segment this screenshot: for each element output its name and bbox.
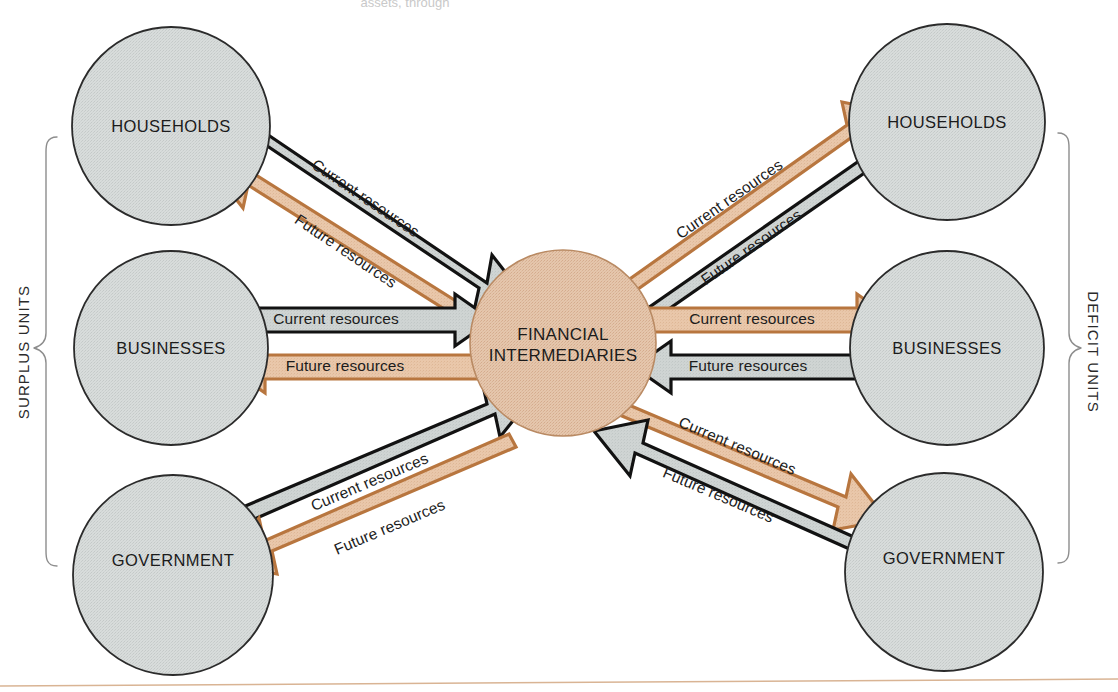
surplus-government-node[interactable]: GOVERNMENT xyxy=(73,475,273,675)
caption-fragment: assets, through xyxy=(361,0,450,10)
surplus-households-node[interactable]: HOUSEHOLDS xyxy=(72,27,270,225)
flow-label-surplus-businesses-future: Future resources xyxy=(286,357,405,374)
deficit-government-node[interactable]: GOVERNMENT xyxy=(845,473,1043,671)
flow-label-deficit-businesses-current: Current resources xyxy=(689,310,815,327)
hub-label-line2: INTERMEDIARIES xyxy=(489,346,638,365)
flow-of-funds-diagram: assets, through xyxy=(0,0,1118,692)
surplus-businesses-node[interactable]: BUSINESSES xyxy=(74,251,268,445)
surplus-government-label: GOVERNMENT xyxy=(112,551,234,569)
deficit-households-label: HOUSEHOLDS xyxy=(887,113,1007,131)
diagram-canvas: assets, through xyxy=(0,0,1118,692)
deficit-government-label: GOVERNMENT xyxy=(883,549,1005,567)
deficit-households-node[interactable]: HOUSEHOLDS xyxy=(849,24,1045,220)
hub-label-line1: FINANCIAL xyxy=(517,325,609,344)
flow-label-surplus-businesses-current: Current resources xyxy=(273,310,399,327)
surplus-units-label: SURPLUS UNITS xyxy=(15,285,32,419)
deficit-businesses-node[interactable]: BUSINESSES xyxy=(850,251,1044,445)
deficit-units-label: DEFICIT UNITS xyxy=(1085,291,1102,413)
surplus-households-label: HOUSEHOLDS xyxy=(111,117,231,135)
surplus-businesses-label: BUSINESSES xyxy=(116,339,225,357)
deficit-businesses-label: BUSINESSES xyxy=(892,339,1001,357)
flow-label-deficit-businesses-future: Future resources xyxy=(689,357,808,374)
financial-intermediaries-node[interactable]: FINANCIAL INTERMEDIARIES xyxy=(470,250,656,436)
